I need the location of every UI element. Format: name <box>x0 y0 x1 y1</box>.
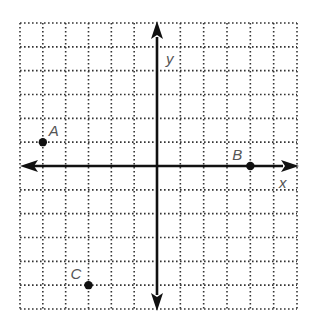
axes <box>20 21 299 311</box>
point-label-c: C <box>71 265 82 282</box>
point-b <box>246 162 254 170</box>
point-a <box>39 138 47 146</box>
coordinate-plane: ABC x y <box>0 0 314 326</box>
x-axis-label: x <box>278 174 287 191</box>
point-label-b: B <box>232 146 242 163</box>
point-c <box>84 281 92 289</box>
x-axis-arrow-right-icon <box>281 160 299 172</box>
y-axis-label: y <box>165 50 175 67</box>
points: ABC <box>39 122 255 289</box>
point-label-a: A <box>48 122 59 139</box>
